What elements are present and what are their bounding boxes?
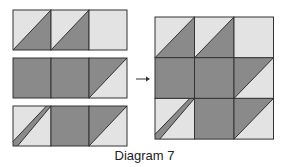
dark-square — [51, 58, 89, 98]
dark-square — [195, 98, 235, 139]
dark-square — [155, 58, 195, 99]
diagram-canvas — [0, 0, 289, 167]
light-square — [89, 10, 127, 50]
dark-square — [13, 58, 51, 98]
dark-square — [51, 106, 89, 146]
arrow-head-icon — [146, 77, 150, 82]
diagram-caption: Diagram 7 — [0, 148, 289, 163]
light-square — [234, 17, 274, 58]
dark-square — [195, 58, 235, 99]
